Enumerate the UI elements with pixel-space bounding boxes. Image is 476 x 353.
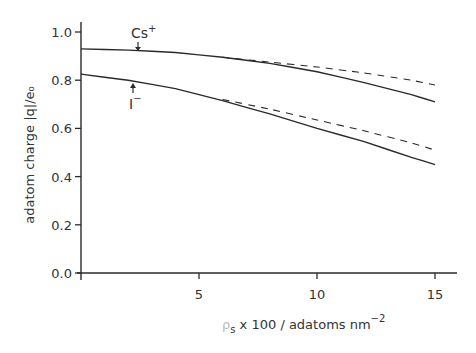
cs-annotation: Cs+ bbox=[131, 23, 156, 51]
y-tick-label: 0.8 bbox=[51, 73, 72, 88]
x-axis-title-sup: −2 bbox=[371, 313, 386, 324]
x-tick-label: 15 bbox=[427, 287, 444, 302]
y-tick-labels: 0.00.20.40.60.81.0 bbox=[51, 25, 72, 281]
i-annotation: I− bbox=[129, 83, 142, 112]
x-tick-label: 5 bbox=[195, 287, 203, 302]
y-axis-title: adatom charge |q|/e₀ bbox=[22, 86, 37, 223]
i-arrowhead-icon bbox=[130, 83, 136, 88]
x-tick-label: 10 bbox=[309, 287, 326, 302]
series-line bbox=[223, 99, 435, 150]
y-tick-label: 1.0 bbox=[51, 25, 72, 40]
chart: 0.00.20.40.60.81.0 51015 adatom charge |… bbox=[0, 0, 476, 353]
svg-text:Cs+: Cs+ bbox=[131, 23, 156, 41]
x-axis-title-rho: ρ bbox=[222, 317, 230, 332]
y-tick-label: 0.4 bbox=[51, 170, 72, 185]
y-ticks bbox=[75, 32, 81, 273]
x-tick-labels: 51015 bbox=[195, 287, 443, 302]
x-ticks bbox=[199, 273, 435, 279]
y-tick-label: 0.2 bbox=[51, 218, 72, 233]
x-axis-title-main: x 100 / adatoms nm bbox=[235, 317, 370, 332]
svg-text:I−: I− bbox=[129, 93, 142, 112]
y-tick-label: 0.0 bbox=[51, 266, 72, 281]
x-axis-title: ρs x 100 / adatoms nm−2 bbox=[222, 313, 385, 335]
series bbox=[81, 49, 435, 165]
axes bbox=[77, 22, 457, 280]
y-tick-label: 0.6 bbox=[51, 121, 72, 136]
